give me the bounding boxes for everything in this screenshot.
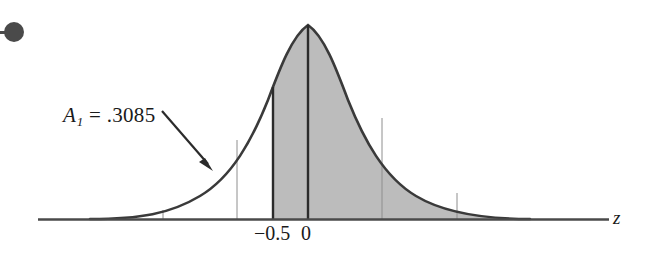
annotation-arrow	[162, 111, 213, 171]
distribution-plot	[0, 0, 648, 264]
bullet-marker-icon	[4, 22, 24, 42]
area-variable: A	[63, 103, 76, 127]
tick-label-neg-half: −0.5	[254, 222, 290, 245]
axis-label-z: z	[613, 207, 620, 229]
area-annotation-label: A1 = .3085	[63, 103, 155, 130]
normal-distribution-figure: A1 = .3085 −0.5 0 z	[0, 0, 648, 264]
tick-label-zero: 0	[301, 222, 311, 245]
area-equals-sign: =	[83, 103, 106, 127]
area-value: .3085	[107, 103, 156, 127]
